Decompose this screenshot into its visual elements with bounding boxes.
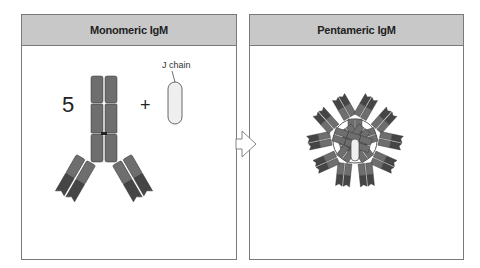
monomer-igm xyxy=(55,76,152,202)
pentamer-j-chain xyxy=(351,139,359,161)
j-chain xyxy=(168,71,182,124)
arrow-right-icon xyxy=(236,131,256,157)
igm-diagram xyxy=(0,0,480,268)
pentameric-igm xyxy=(303,94,407,193)
